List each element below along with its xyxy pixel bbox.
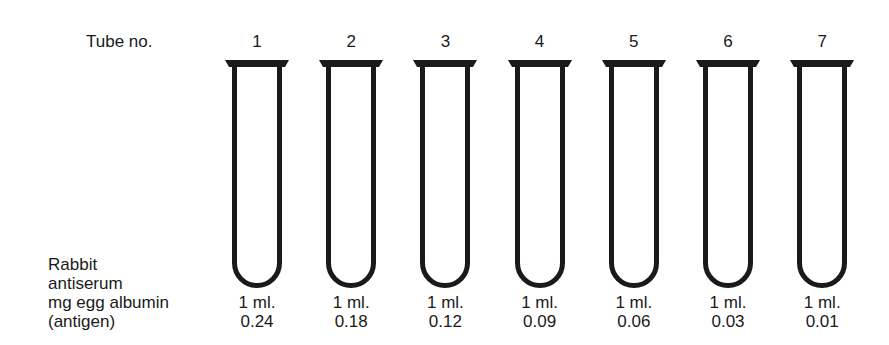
tube-contents: 1 ml.0.18 [311,293,391,331]
label-antigen: (antigen) [48,312,169,331]
test-tube-icon [602,58,666,294]
tube-number: 5 [602,32,666,52]
antiserum-volume: 1 ml. [311,293,391,312]
antiserum-volume: 1 ml. [500,293,580,312]
label-rabbit: Rabbit [48,255,169,274]
tube-contents: 1 ml.0.24 [217,293,297,331]
tube-number: 2 [319,32,383,52]
tube-contents: 1 ml.0.03 [688,293,768,331]
tube-number: 1 [225,32,289,52]
test-tube-icon [413,58,477,294]
antiserum-volume: 1 ml. [405,293,485,312]
antiserum-volume: 1 ml. [782,293,862,312]
antigen-amount: 0.06 [594,312,674,331]
antigen-amount: 0.01 [782,312,862,331]
test-tube-icon [508,58,572,294]
antiserum-volume: 1 ml. [688,293,768,312]
test-tube-icon [790,58,854,294]
tube-number-label: Tube no. [86,32,152,52]
test-tube-icon [696,58,760,294]
test-tube-icon [319,58,383,294]
tube-number: 3 [413,32,477,52]
antigen-amount: 0.18 [311,312,391,331]
tube-contents: 1 ml.0.12 [405,293,485,331]
tube-number: 6 [696,32,760,52]
antiserum-volume: 1 ml. [594,293,674,312]
tube-number: 7 [790,32,854,52]
tube-contents: 1 ml.0.09 [500,293,580,331]
label-antiserum: antiserum [48,274,169,293]
test-tube-icon [225,58,289,294]
antigen-amount: 0.24 [217,312,297,331]
tube-contents: 1 ml.0.01 [782,293,862,331]
tube-contents: 1 ml.0.06 [594,293,674,331]
antigen-amount: 0.12 [405,312,485,331]
antigen-amount: 0.03 [688,312,768,331]
tube-number: 4 [508,32,572,52]
antigen-amount: 0.09 [500,312,580,331]
row-labels: Rabbit antiserum mg egg albumin (antigen… [48,255,169,331]
antiserum-volume: 1 ml. [217,293,297,312]
label-mg-egg-albumin: mg egg albumin [48,293,169,312]
